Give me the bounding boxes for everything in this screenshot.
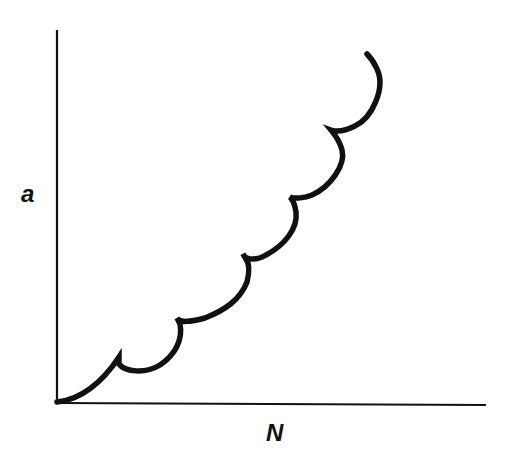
y-axis-label: a [21, 182, 34, 206]
x-axis [55, 403, 486, 405]
x-axis-label: N [266, 421, 283, 445]
chart-figure [0, 0, 509, 460]
crack-growth-curve [57, 54, 380, 402]
